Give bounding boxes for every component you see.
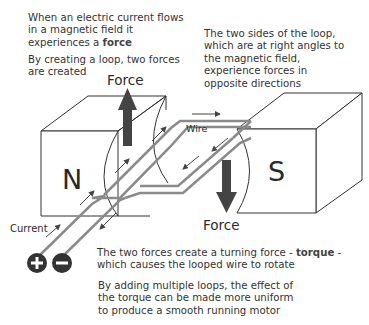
force-down-label: Force: [203, 217, 240, 233]
south-label: S: [268, 156, 285, 187]
motor-diagram: N S Force Force Wire Current: [0, 0, 369, 325]
north-label: N: [62, 164, 82, 195]
positive-terminal: [27, 253, 47, 273]
force-up-label: Force: [107, 72, 144, 88]
force-arrow-down: [216, 160, 237, 213]
wire-label: Wire: [186, 123, 208, 134]
current-label: Current: [10, 223, 48, 234]
negative-terminal: [52, 253, 72, 273]
south-magnet: [237, 93, 362, 213]
